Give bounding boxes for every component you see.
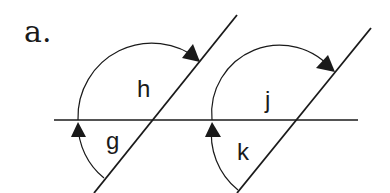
angle-label-h: h — [137, 75, 150, 102]
diagonal-line-left — [94, 15, 237, 193]
angle-k-arrowhead-icon — [205, 122, 221, 137]
angle-label-k: k — [237, 138, 250, 165]
part-label: a. — [24, 14, 51, 49]
angle-diagram: a. h g j k — [0, 0, 390, 193]
angle-label-j: j — [264, 86, 270, 113]
angle-h-arrowhead-icon — [182, 44, 200, 62]
angle-j-arc — [212, 45, 333, 120]
angle-label-g: g — [106, 127, 119, 154]
angle-g-arrowhead-icon — [71, 122, 86, 137]
diagonal-line-right — [237, 28, 371, 193]
